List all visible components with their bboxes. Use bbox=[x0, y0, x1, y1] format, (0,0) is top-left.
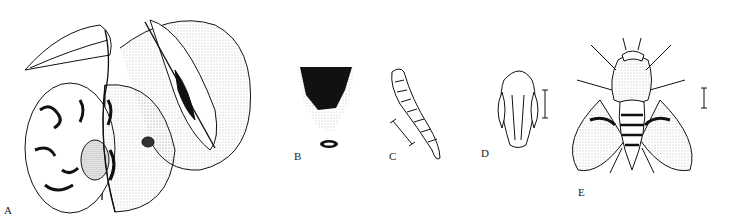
adult-fly-illustration bbox=[572, 38, 707, 173]
pupa-illustration bbox=[498, 71, 548, 148]
panel-label-e: E bbox=[578, 186, 585, 198]
panel-label-b: B bbox=[294, 150, 301, 162]
panel-label-d: D bbox=[481, 147, 489, 159]
tunnel-section-illustration bbox=[297, 67, 355, 148]
larva-illustration bbox=[390, 69, 440, 159]
illustration-canvas: A B C D bbox=[0, 0, 730, 223]
panel-label-c: C bbox=[389, 150, 396, 162]
panel-label-a: A bbox=[4, 204, 12, 216]
apple-illustration bbox=[25, 20, 251, 213]
